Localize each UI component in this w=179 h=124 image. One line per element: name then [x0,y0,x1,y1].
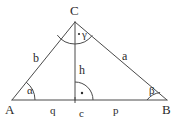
angle-label-alpha: α [27,85,33,96]
angle-arc-right-angle [75,82,93,100]
segment-label-q: q [50,105,56,116]
side-label-b: b [33,52,39,64]
angle-dot-right-angle [81,92,83,94]
geometry-canvas [0,0,179,124]
segment-side-b [12,22,75,100]
angle-dot-gamma [78,33,80,35]
segment-label-c: c [79,108,84,119]
side-label-h: h [79,64,85,76]
angle-arc-gamma-left [57,35,75,44]
vertex-label-a: A [5,103,14,116]
side-label-a: a [122,50,127,62]
vertex-label-b: B [162,103,171,116]
vertex-label-c: C [70,4,79,17]
triangle-diagram: A B C b a h q c p α β γ [0,0,179,124]
angle-label-beta: β [149,85,155,96]
angle-label-gamma: γ [82,29,87,40]
segment-label-p: p [113,105,119,116]
